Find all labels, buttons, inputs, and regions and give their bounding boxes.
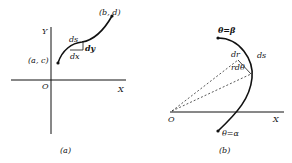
b-radius-1 [172,60,238,111]
a-start-point [56,61,59,64]
b-dr-label: dr [231,50,241,59]
a-x-axis-label: X [117,85,124,94]
a-dy-label: dy [85,43,97,53]
figure-a: Y X O ds dx dy (a, c) (b, d) (a) [11,8,126,155]
b-ds-label: ds [257,51,266,60]
a-caption: (a) [60,146,71,155]
a-curve [58,16,112,63]
b-rdtheta-label: rdθ [231,63,245,72]
a-ds-label: ds [69,35,78,44]
a-start-point-label: (a, c) [28,56,49,65]
b-x-axis-label: X [272,115,279,124]
a-dx-label: dx [70,52,80,61]
b-radius-2 [172,74,251,111]
b-caption: (b) [219,146,230,155]
b-bottom-point-label: θ=α [222,129,240,138]
a-end-point-label: (b, d) [99,8,121,17]
b-top-point-label: θ=β [218,25,236,35]
figure-b: X O θ=β θ=α dr rdθ ds (b) [168,25,284,155]
b-origin-label: O [168,115,175,124]
a-origin-label: O [42,82,49,91]
b-bottom-point [216,129,219,132]
diagram-canvas: Y X O ds dx dy (a, c) (b, d) (a) X O θ=β… [0,0,292,163]
a-y-axis-label: Y [42,27,48,36]
b-top-point [216,36,219,39]
